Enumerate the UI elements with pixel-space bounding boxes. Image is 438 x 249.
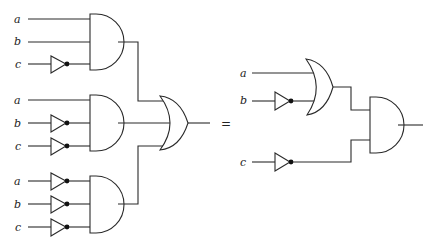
wire-or2-to-and: [333, 87, 370, 110]
logic-circuit-diagram: a b c a b c a: [0, 0, 438, 249]
input-label-b: b: [14, 117, 21, 130]
wire-and3-to-or: [118, 146, 166, 204]
not-gate-icon: [275, 153, 293, 171]
not-gate-icon: [51, 115, 69, 132]
not-gate-icon: [51, 219, 69, 236]
equals-sign: =: [221, 117, 231, 131]
input-label-a: a: [14, 94, 21, 107]
input-label-c: c: [240, 156, 246, 169]
input-label-b: b: [240, 94, 247, 107]
input-label-b: b: [14, 198, 21, 211]
input-label-c: c: [15, 140, 21, 153]
term-1-inputs: a b c: [14, 13, 90, 73]
wire-and1-to-or: [118, 42, 166, 101]
not-gate-icon: [275, 92, 293, 110]
input-label-a: a: [14, 13, 21, 26]
input-label-c: c: [15, 221, 21, 234]
or-gate-2-icon: [306, 59, 333, 115]
input-label-a: a: [14, 175, 21, 188]
wire-not-c-to-and: [293, 140, 370, 162]
not-gate-icon: [51, 196, 69, 213]
term-2-inputs: a b c: [14, 94, 90, 155]
not-gate-icon: [51, 173, 69, 190]
input-label-a: a: [240, 67, 247, 80]
input-label-b: b: [14, 35, 21, 48]
not-gate-icon: [51, 138, 69, 155]
term-3-inputs: a b c: [14, 173, 90, 236]
not-gate-icon: [51, 56, 69, 73]
input-label-c: c: [15, 58, 21, 71]
